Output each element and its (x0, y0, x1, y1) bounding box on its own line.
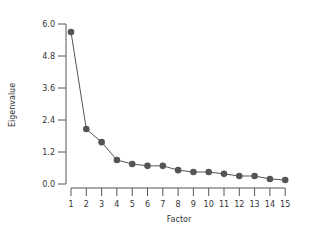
data-point-marker (114, 157, 121, 164)
series-line (71, 32, 285, 180)
x-tick-label: 5 (130, 200, 135, 209)
y-tick-label: 1.2 (42, 148, 55, 157)
data-point-marker (160, 163, 167, 170)
data-point-marker (267, 176, 274, 183)
x-tick-label: 1 (68, 200, 73, 209)
data-point-marker (175, 167, 182, 174)
data-point-marker (190, 169, 197, 176)
x-tick-label: 4 (114, 200, 119, 209)
data-point-marker (83, 126, 90, 133)
x-tick-label: 6 (145, 200, 150, 209)
data-point-marker (129, 161, 136, 168)
x-tick-label: 12 (234, 200, 244, 209)
x-tick-label: 2 (84, 200, 89, 209)
scree-plot: 0.01.22.43.64.86.0 123456789101112131415… (0, 0, 313, 239)
x-tick-label: 8 (176, 200, 181, 209)
data-point-marker (144, 163, 151, 170)
x-tick-label: 3 (99, 200, 104, 209)
y-axis: 0.01.22.43.64.86.0 (42, 20, 66, 189)
y-tick-label: 6.0 (42, 20, 55, 29)
data-point-marker (221, 171, 228, 178)
y-tick-label: 2.4 (42, 116, 55, 125)
y-tick-label: 4.8 (42, 52, 55, 61)
data-point-marker (236, 173, 243, 180)
x-tick-label: 14 (265, 200, 275, 209)
data-point-marker (205, 169, 212, 176)
x-tick-label: 7 (160, 200, 165, 209)
x-tick-label: 11 (219, 200, 229, 209)
data-point-marker (98, 139, 105, 146)
data-series (68, 29, 289, 184)
y-axis-label: Eigenvalue (8, 83, 17, 127)
x-tick-label: 13 (250, 200, 260, 209)
data-point-marker (68, 29, 75, 36)
y-tick-label: 0.0 (42, 180, 55, 189)
x-axis: 123456789101112131415 (68, 188, 290, 209)
data-point-marker (251, 173, 258, 180)
x-tick-label: 10 (204, 200, 214, 209)
x-axis-label: Factor (167, 215, 192, 224)
data-point-marker (282, 177, 289, 184)
x-tick-label: 15 (280, 200, 290, 209)
x-tick-label: 9 (191, 200, 196, 209)
y-tick-label: 3.6 (42, 84, 55, 93)
